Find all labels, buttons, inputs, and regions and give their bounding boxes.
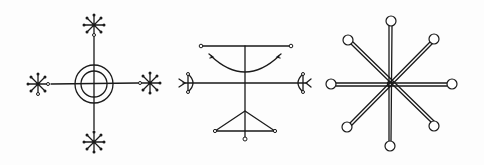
asterisk-icon-left: [27, 73, 50, 96]
ring-icon-bottom-left: [342, 122, 352, 132]
ring-icon-left: [326, 79, 336, 89]
ring-icon-right: [447, 79, 457, 89]
symbols-figure: [0, 0, 484, 165]
top-bar-left-dot: [199, 44, 203, 48]
ring-icon-bottom-right: [429, 121, 439, 131]
asterisk-icon-top: [83, 14, 106, 37]
stem-bottom-dot: [243, 137, 247, 141]
ring-icon-bottom: [385, 141, 395, 151]
arc-left-arrow-icon: [209, 54, 213, 58]
asterisk-icon-right: [139, 72, 162, 95]
triangle-left-dot: [213, 129, 216, 132]
asterisk-icon-bottom: [83, 131, 106, 154]
middle-symbol-cross-bows-triangle: [179, 44, 311, 141]
left-symbol-cross-circles: [27, 14, 162, 154]
triangle-right-dot: [273, 129, 276, 132]
symbols-svg: [0, 0, 484, 165]
left-horizontal-line: [51, 83, 138, 84]
top-bar-right-dot: [289, 44, 293, 48]
arc-right-arrow-icon: [277, 54, 281, 58]
ring-icon-top-left: [343, 35, 353, 45]
right-symbol-eight-spoked-star: [326, 16, 457, 151]
ring-icon-top-right: [429, 34, 439, 44]
ring-icon-top: [386, 16, 396, 26]
